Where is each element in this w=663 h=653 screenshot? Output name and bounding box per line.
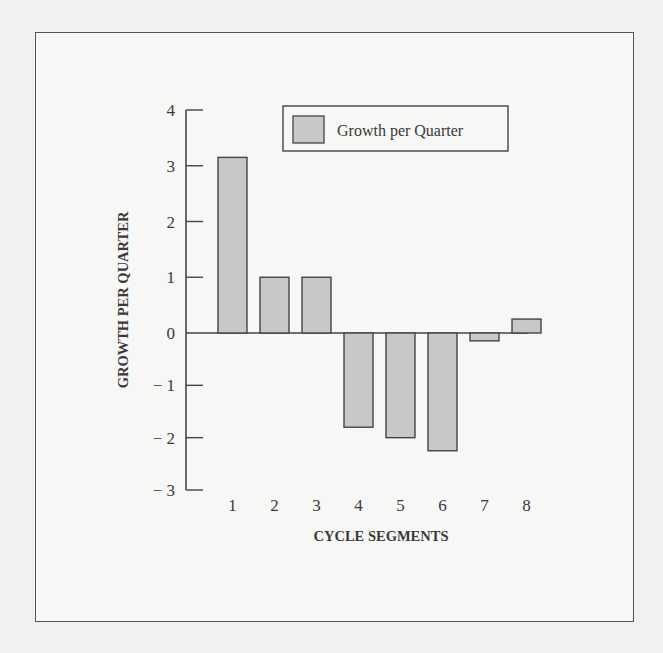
bar-segment-6 [428,333,457,451]
y-tick-label: − 2 [153,429,175,448]
x-tick-label: 4 [354,496,363,515]
legend-swatch [293,116,324,143]
bar-segment-1 [218,157,247,333]
bar-segment-3 [302,277,331,333]
y-tick-label: 3 [167,157,176,176]
y-tick-label: 0 [167,324,176,343]
x-tick-label: 7 [480,496,489,515]
x-tick-label: 2 [270,496,279,515]
bar-segment-5 [386,333,415,438]
y-tick-label: 1 [167,268,176,287]
y-tick-label: 4 [167,101,176,120]
legend: Growth per Quarter [283,106,508,151]
x-tick-label: 1 [228,496,237,515]
y-axis-label: GROWTH PER QUARTER [115,211,131,388]
x-tick-label: 5 [396,496,405,515]
bar-segment-4 [344,333,373,427]
y-axis-ticks: 43210− 1− 2− 3 [153,101,203,500]
bar-segment-8 [512,319,541,333]
y-tick-label: − 3 [153,481,175,500]
x-axis-ticks: 12345678 [228,496,531,515]
bars-group [218,157,541,450]
x-tick-label: 6 [438,496,447,515]
legend-label: Growth per Quarter [337,122,464,140]
bar-chart: 43210− 1− 2− 3 12345678 GROWTH PER QUART… [0,0,663,653]
bar-segment-7 [470,333,499,341]
x-tick-label: 8 [522,496,531,515]
y-tick-label: 2 [167,213,176,232]
x-axis-label: CYCLE SEGMENTS [314,528,449,544]
x-tick-label: 3 [312,496,321,515]
y-tick-label: − 1 [153,376,175,395]
bar-segment-2 [260,277,289,333]
